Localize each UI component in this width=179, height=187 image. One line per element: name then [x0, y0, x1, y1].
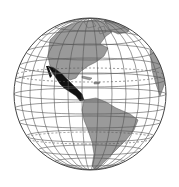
- globe-map: Globe highlighting Mexico and Central Am…: [0, 0, 179, 187]
- globe-svg: [0, 0, 179, 187]
